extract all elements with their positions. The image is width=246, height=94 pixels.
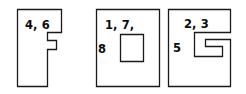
rectangle-label-1-7: 1, 7, [105,18,134,32]
shape-rectangle-with-hole-polygon: 1, 7, 8 [97,10,160,87]
geometry-figure: 4, 6 1, 7, 8 2, 3 5 [0,0,246,94]
shape-f-shape-polygon: 4, 6 [18,10,62,87]
shape-g-notch-polygon: 2, 3 5 [169,10,231,87]
g-notch-label-2-3: 2, 3 [184,17,209,31]
rectangle-label-8: 8 [98,42,106,56]
shapes-canvas: 4, 6 1, 7, 8 2, 3 5 [0,0,246,94]
f-shape-label-4-6: 4, 6 [25,18,50,32]
rectangle-inner-hole [121,35,144,62]
g-notch-label-5: 5 [173,41,181,55]
